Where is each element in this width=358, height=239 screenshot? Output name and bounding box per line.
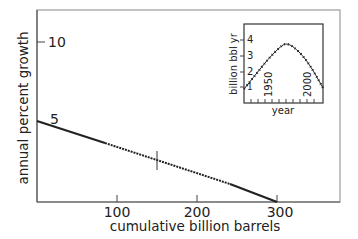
y-axis-label: annual percent growth <box>15 31 31 184</box>
y-tick-label-10: 10 <box>48 34 66 50</box>
series-line-solid-2 <box>230 184 277 202</box>
inset-x-label: year <box>272 105 295 116</box>
series-line-solid-1 <box>37 121 105 143</box>
inset-y-label: billion bbl yr <box>228 32 239 95</box>
svg-text:2: 2 <box>247 66 253 77</box>
svg-text:4: 4 <box>247 34 253 45</box>
svg-text:2000: 2000 <box>302 72 313 97</box>
chart: 10 5 100 200 300 cumulative billion barr… <box>0 0 358 239</box>
series-line-dotted <box>105 143 230 184</box>
x-axis-label: cumulative billion barrels <box>110 218 281 234</box>
svg-text:3: 3 <box>247 50 253 61</box>
svg-text:1950: 1950 <box>263 72 274 97</box>
inset-chart: 1 2 3 4 1950 2000 year billion bbl yr <box>228 24 323 116</box>
